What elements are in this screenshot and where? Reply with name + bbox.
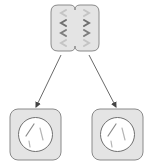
cell-division-diagram <box>0 0 150 167</box>
arrow-left <box>36 55 61 107</box>
daughter-cell-right-nucleus <box>101 118 135 152</box>
arrow-right <box>89 55 116 107</box>
daughter-cell-left <box>10 109 61 160</box>
parent-cell-membrane <box>51 5 99 51</box>
parent-cell <box>51 5 99 51</box>
daughter-cell-left-nucleus <box>19 118 53 152</box>
daughter-cell-right <box>92 109 143 160</box>
